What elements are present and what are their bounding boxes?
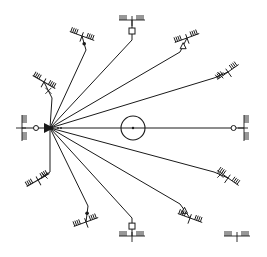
ring-marker-icon	[34, 126, 39, 131]
hub-dot	[60, 127, 62, 129]
dot-marker-icon	[85, 211, 89, 215]
ground-anchor-top-icon	[119, 15, 145, 26]
cable-line-upper-left-2	[50, 36, 86, 128]
ground-anchor-upper-left-2-icon	[68, 27, 96, 46]
diagram-canvas	[0, 0, 267, 257]
ground-anchor-lower-right-1-icon	[214, 166, 242, 190]
legend-ground-symbol-icon	[224, 231, 250, 242]
ground-anchor-upper-right-1-icon	[173, 29, 201, 48]
ground-anchor-upper-right-2-icon	[214, 60, 242, 84]
cable-line-lower-left-1	[50, 128, 88, 222]
hub-dot	[57, 127, 59, 129]
hub-icon	[44, 123, 54, 133]
ground-anchor-right-icon	[238, 115, 249, 141]
ground-anchor-lower-left-2-icon	[24, 169, 52, 192]
ground-anchor-bottom-icon	[119, 231, 145, 242]
ground-anchor-lower-right-2-icon	[176, 209, 204, 228]
ground-anchor-lower-left-1-icon	[72, 213, 100, 232]
radial-anchor-diagram	[0, 0, 267, 257]
triangle-marker-icon	[180, 43, 186, 49]
dot-marker-icon	[82, 42, 86, 46]
ground-anchor-left-icon	[16, 115, 27, 141]
cable-line-top	[50, 20, 132, 128]
cable-line-lower-right-1	[50, 128, 228, 178]
tick-marker-icon	[45, 88, 51, 94]
square-marker-icon	[129, 223, 135, 229]
ground-anchor-upper-left-1-icon	[30, 71, 58, 94]
square-marker-icon	[129, 28, 135, 34]
ring-marker-icon	[231, 126, 236, 131]
